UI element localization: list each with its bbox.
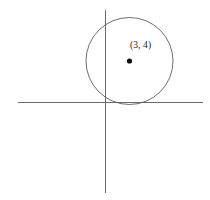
figure-canvas xyxy=(0,0,210,200)
coordinate-plane-figure: (3, 4) xyxy=(0,0,210,200)
circle-center-dot xyxy=(127,58,132,63)
center-point-label: (3, 4) xyxy=(130,41,151,51)
